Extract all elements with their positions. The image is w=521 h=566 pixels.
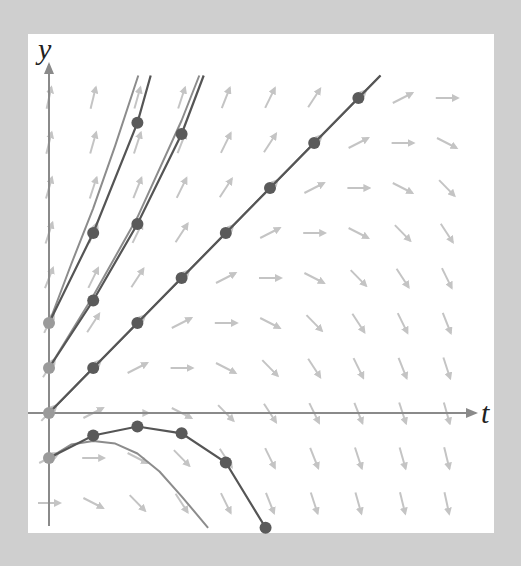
slope-arrow [216, 363, 236, 373]
slope-arrow [90, 178, 97, 199]
slope-arrow [310, 448, 318, 468]
slope-arrow [174, 450, 189, 466]
slope-arrow [83, 498, 103, 508]
euler-polyline [49, 76, 381, 414]
euler-point [131, 317, 143, 329]
slope-arrow [265, 88, 275, 108]
slope-arrow [88, 268, 98, 288]
euler-point [264, 182, 276, 194]
slope-arrow [304, 183, 324, 193]
euler-point [87, 430, 99, 442]
slope-arrow [395, 225, 410, 241]
slope-arrow [400, 492, 405, 513]
slope-arrow [266, 493, 274, 513]
slope-arrow [443, 358, 450, 379]
slope-arrow [87, 314, 99, 332]
slope-arrow [444, 492, 449, 513]
slope-arrow [349, 138, 369, 148]
slope-arrow [178, 88, 185, 109]
slope-arrow [442, 268, 452, 288]
slope-arrow [216, 273, 236, 283]
slope-arrow [176, 224, 188, 242]
slope-arrow [91, 87, 96, 108]
euler-polyline [49, 427, 266, 528]
slope-arrow [264, 134, 276, 152]
slope-arrow [400, 447, 406, 468]
initial-condition-point [43, 317, 55, 329]
slope-arrow [262, 360, 277, 376]
euler-point [176, 427, 188, 439]
slope-arrow [128, 363, 148, 373]
euler-point [308, 137, 320, 149]
slope-arrow [306, 315, 321, 331]
slope-arrow [352, 314, 364, 332]
euler-point [87, 295, 99, 307]
y-axis-label: y [38, 34, 51, 64]
slope-field-arrows [38, 87, 458, 513]
t-axis-label: t [481, 398, 489, 428]
slope-arrow [439, 180, 454, 196]
slope-arrow [131, 269, 143, 287]
euler-point [131, 218, 143, 230]
euler-point [176, 272, 188, 284]
slope-arrow [399, 358, 407, 378]
slope-arrow [260, 228, 280, 238]
initial-condition-point [43, 362, 55, 374]
slope-arrow [90, 132, 96, 153]
slope-arrow [222, 88, 230, 108]
slope-arrow [130, 495, 145, 511]
slope-arrow [221, 493, 231, 513]
slope-arrow [397, 269, 409, 287]
slope-arrow [221, 133, 231, 153]
slope-arrow [133, 178, 141, 198]
slope-arrow [134, 87, 140, 108]
slope-arrow [304, 273, 324, 283]
euler-point [176, 128, 188, 140]
euler-point [220, 227, 232, 239]
slope-arrow [355, 492, 361, 513]
slope-arrow [220, 179, 232, 197]
slope-arrow [349, 228, 369, 238]
slope-field-plot [0, 0, 521, 566]
exact-solution-curve [49, 76, 138, 324]
slope-arrow [398, 313, 408, 333]
euler-point [260, 522, 272, 534]
slope-arrow [443, 313, 451, 333]
euler-point [131, 421, 143, 433]
slope-arrow [265, 448, 275, 468]
initial-condition-point [43, 407, 55, 419]
euler-point [352, 92, 364, 104]
slope-arrow [308, 359, 320, 377]
slope-arrow [177, 178, 187, 198]
slope-arrow [393, 93, 413, 103]
slope-arrow [354, 358, 364, 378]
slope-arrow [260, 318, 280, 328]
slope-arrow [308, 89, 320, 107]
initial-condition-point [43, 452, 55, 464]
slope-arrow [355, 448, 362, 469]
slope-arrow [311, 493, 318, 514]
slope-arrow [444, 447, 449, 468]
slope-arrow [441, 224, 453, 242]
slope-arrow [393, 183, 413, 193]
euler-point [131, 117, 143, 129]
slope-arrow [172, 318, 192, 328]
euler-point [87, 362, 99, 374]
slope-arrow [437, 138, 457, 148]
slope-arrow [134, 133, 141, 154]
slope-arrow [351, 270, 366, 286]
euler-point [220, 457, 232, 469]
euler-point [87, 227, 99, 239]
